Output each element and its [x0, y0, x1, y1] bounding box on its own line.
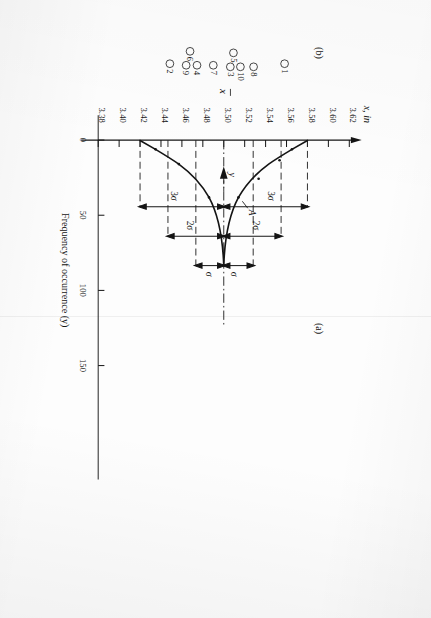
sample-bead-10: 10: [236, 63, 245, 81]
sample-bead-9: 9: [181, 61, 190, 75]
sigma-label-plus-1: σ: [229, 272, 238, 277]
x-tick-label-3.62: 3.62: [348, 107, 357, 123]
sample-bead-4: 4: [192, 61, 201, 75]
figure-text-layer: 3.38 3.40 3.42 3.44 3.46 3.48 3.50 3.52 …: [61, 92, 371, 526]
x-tick-label-3.56: 3.56: [286, 107, 295, 123]
x-tick-label-3.58: 3.58: [307, 107, 316, 123]
bead-circle-icon: [209, 61, 218, 70]
sample-bead-2: 2: [165, 59, 174, 73]
curve-point-a-label: A: [247, 210, 256, 216]
y-leader-label: y: [227, 173, 237, 177]
x-tick-label-3.50: 3.50: [223, 107, 232, 123]
bead-circle-icon: [236, 63, 245, 72]
sigma-label-plus-3: 3σ: [266, 191, 275, 201]
bead-number: 9: [181, 71, 190, 75]
x-bar-overline: [229, 89, 230, 96]
x-tick-label-3.48: 3.48: [202, 107, 211, 123]
part-a-label: (a): [314, 323, 324, 334]
y-axis-title: Frequency of occurrence (y): [60, 213, 70, 327]
x-tick-label-3.38: 3.38: [97, 107, 106, 123]
sigma-label-plus-2: 2σ: [251, 221, 260, 231]
sample-bead-3: 3: [226, 63, 235, 77]
x-tick-label-3.46: 3.46: [181, 107, 190, 123]
x-tick-label-3.44: 3.44: [160, 107, 169, 123]
x-tick-label-3.54: 3.54: [265, 107, 274, 123]
bead-circle-icon: [229, 49, 238, 58]
rotated-figure-container: 3.38 3.40 3.42 3.44 3.46 3.48 3.50 3.52 …: [61, 92, 371, 526]
x-tick-label-3.42: 3.42: [139, 107, 148, 123]
x-axis-title: x, in: [362, 106, 372, 123]
bead-number: 2: [165, 69, 174, 73]
bead-number: 7: [209, 71, 218, 75]
x-tick-label-3.60: 3.60: [327, 107, 336, 123]
y-tick-label-150: 150: [78, 359, 87, 372]
sample-bead-6: 6: [185, 47, 194, 61]
bead-number: 8: [249, 72, 258, 76]
x-bar-mean-marker: x: [216, 89, 228, 94]
bead-circle-icon: [185, 47, 194, 56]
x-tick-label-3.40: 3.40: [118, 107, 127, 123]
bead-number: 4: [192, 71, 201, 75]
bead-number: 3: [226, 72, 235, 76]
x-bar-letter: x: [217, 89, 229, 94]
bead-circle-icon: [192, 61, 201, 70]
sigma-label-minus-3: 3σ: [169, 191, 178, 201]
sample-bead-7: 7: [209, 61, 218, 75]
sample-bead-5: 5: [229, 49, 238, 63]
bead-circle-icon: [165, 59, 174, 68]
part-b-label: (b): [314, 47, 324, 59]
bead-circle-icon: [181, 61, 190, 70]
bead-circle-icon: [249, 63, 258, 72]
sample-bead-8: 8: [249, 63, 258, 77]
sigma-label-minus-2: 2σ: [185, 221, 194, 231]
bead-number: 10: [236, 72, 245, 81]
x-tick-label-3.52: 3.52: [244, 107, 253, 123]
sigma-label-minus-1: σ: [204, 272, 213, 277]
bead-circle-icon: [226, 63, 235, 72]
scanned-figure-page: 3.38 3.40 3.42 3.44 3.46 3.48 3.50 3.52 …: [0, 0, 431, 618]
sample-bead-1: 1: [280, 59, 289, 73]
y-tick-label-100: 100: [78, 284, 87, 297]
y-tick-label-50: 50: [78, 211, 87, 220]
bead-circle-icon: [280, 59, 289, 68]
y-tick-label-0: 0: [78, 138, 87, 142]
bead-number: 1: [280, 69, 289, 73]
